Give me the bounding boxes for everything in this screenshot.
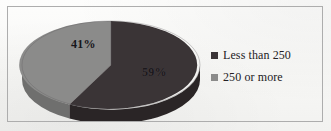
legend-label-250-or-more: 250 or more: [223, 70, 283, 85]
pie-data-label-250-or-more: 41%: [71, 37, 96, 52]
pie-chart-screenshot: 41% 59% Less than 250 250 or more: [0, 0, 331, 131]
chart-legend: Less than 250 250 or more: [211, 44, 323, 88]
legend-label-less-than-250: Less than 250: [223, 48, 291, 63]
legend-swatch-icon-less-than-250: [211, 52, 218, 59]
pie-chart-graphic: 41% 59%: [13, 9, 209, 121]
legend-swatch-icon-250-or-more: [211, 74, 218, 81]
legend-item-less-than-250[interactable]: Less than 250: [211, 44, 323, 66]
pie-svg: [13, 9, 209, 121]
pie-data-label-less-than-250: 59%: [142, 65, 167, 80]
legend-item-250-or-more[interactable]: 250 or more: [211, 66, 323, 88]
